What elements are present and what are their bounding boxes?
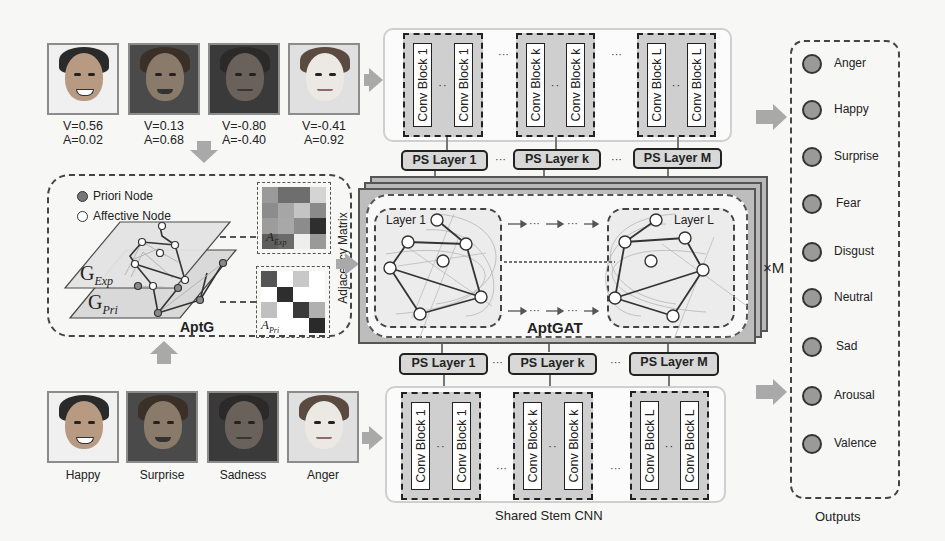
flow-ellipsis: ··· <box>529 217 540 229</box>
face-mouth <box>237 89 253 91</box>
conv-block-label: Conv Block L <box>643 409 657 483</box>
priori-node-icon <box>77 191 88 202</box>
output-label-fear: Fear <box>836 196 861 210</box>
valence-value: V=0.56 <box>43 119 123 133</box>
top-conv-group-k: Conv Block k ·· Conv Block k <box>516 33 595 137</box>
connector <box>446 137 448 151</box>
face-head <box>306 53 344 101</box>
matrix-cell <box>309 271 325 287</box>
inner-ellipsis: ·· <box>665 440 674 452</box>
adjacency-matrix-exp: AExp <box>257 182 331 254</box>
face-image-sadness <box>207 391 279 463</box>
matrix-cell <box>293 302 309 318</box>
conv-block: Conv Block 1 <box>454 43 473 127</box>
aptgat-title: AptGAT <box>527 319 583 336</box>
aptg-title: AptG <box>180 319 214 335</box>
conv-block-label: Conv Block L <box>650 48 664 122</box>
conv-block: Conv Block L <box>680 401 699 490</box>
face-image-anger <box>287 391 359 463</box>
conv-block: Conv Block L <box>640 401 659 490</box>
graph-exp-label: GExp <box>80 262 113 289</box>
matrix-cell <box>309 287 325 303</box>
output-node <box>802 288 822 308</box>
arousal-value: A=-0.40 <box>204 133 284 147</box>
graph-pri-label: GPri <box>88 291 118 318</box>
face-eye <box>74 421 81 424</box>
matrix-cell <box>277 271 293 287</box>
conv-block: Conv Block k <box>526 43 545 127</box>
ps-layer-top-M: PS Layer M <box>633 148 722 169</box>
output-node <box>802 242 822 262</box>
matrix-cell <box>277 287 293 303</box>
face-eye <box>328 421 335 424</box>
arrow-right-icon <box>369 68 383 92</box>
legend-priori-node: Priori Node <box>77 188 171 204</box>
conv-block-label: Conv Block 1 <box>455 409 469 483</box>
emotion-label: Happy <box>43 468 123 482</box>
face-mouth <box>157 89 173 94</box>
graph-pri-subscript: Pri <box>102 303 117 317</box>
face-eye <box>169 73 176 76</box>
dashed-arrow-to-exp-matrix <box>220 236 256 238</box>
graph-exp-subscript: Exp <box>94 274 113 288</box>
matrix-subscript: Exp <box>274 238 286 247</box>
matrix-cell <box>262 187 278 203</box>
arrow-down-icon <box>190 150 218 163</box>
face-eye <box>155 73 162 76</box>
matrix-cell <box>261 302 277 318</box>
va-label-2: V=0.13A=0.68 <box>124 119 204 147</box>
face-eye <box>234 421 241 424</box>
dashed-arrow-to-pri-matrix <box>220 301 256 303</box>
arrow-right-icon <box>369 426 383 450</box>
va-label-3: V=-0.80A=-0.40 <box>204 119 284 147</box>
face-eye <box>88 73 95 76</box>
top-conv-group-L: Conv Block L ·· Conv Block L <box>637 33 716 137</box>
matrix-cell <box>293 318 309 334</box>
legend-label: Priori Node <box>93 188 153 204</box>
va-label-4: V=-0.41A=0.92 <box>284 119 364 147</box>
conv-block: Conv Block 1 <box>413 43 432 127</box>
graph-pri-symbol: G <box>88 291 102 313</box>
arrow-right-icon <box>756 385 774 399</box>
repeat-m-label: ×M <box>763 259 784 276</box>
emotion-label: Anger <box>283 468 363 482</box>
conv-block: Conv Block L <box>647 43 666 127</box>
face-image-3 <box>208 43 280 115</box>
face-eye <box>167 421 174 424</box>
face-eye <box>314 421 321 424</box>
face-eye <box>88 421 95 424</box>
arrow-right-icon <box>773 104 787 130</box>
ps-layer-bottom-k: PS Layer k <box>508 353 597 375</box>
matrix-cell <box>310 203 326 219</box>
flow-ellipsis: ··· <box>567 304 578 316</box>
matrix-cell <box>310 218 326 234</box>
arousal-value: A=0.02 <box>43 133 123 147</box>
face-mouth <box>236 437 252 439</box>
inner-ellipsis: ·· <box>551 79 560 91</box>
top-conv-group-1: Conv Block 1 ·· Conv Block 1 <box>403 33 483 137</box>
valence-value: V=-0.80 <box>204 119 284 133</box>
conv-block-label: Conv Block k <box>569 49 583 122</box>
outputs-panel: Anger Happy Surprise Fear Disgust Neutra… <box>790 40 900 499</box>
face-image-2 <box>128 43 200 115</box>
matrix-subscript: Pri <box>269 326 279 335</box>
face-mouth <box>317 89 333 91</box>
output-node <box>802 54 822 74</box>
connector <box>441 344 443 353</box>
inner-ellipsis: ·· <box>436 440 445 452</box>
matrix-cell <box>262 203 278 219</box>
connector <box>677 137 679 148</box>
graph-exp-symbol: G <box>80 262 94 284</box>
output-node <box>802 100 822 120</box>
emotion-label: Surprise <box>122 468 202 482</box>
face-image-happy <box>47 391 119 463</box>
output-label-neutral: Neutral <box>834 290 873 304</box>
output-node <box>802 337 822 357</box>
output-label-surprise: Surprise <box>834 149 879 163</box>
ellipsis: ··· <box>492 356 503 368</box>
conv-block-label: Conv Block 1 <box>414 409 428 483</box>
output-label-anger: Anger <box>834 56 866 70</box>
emotion-label: Sadness <box>203 468 283 482</box>
face-eye <box>153 421 160 424</box>
bottom-conv-group-1: Conv Block 1 ·· Conv Block 1 <box>401 392 481 500</box>
